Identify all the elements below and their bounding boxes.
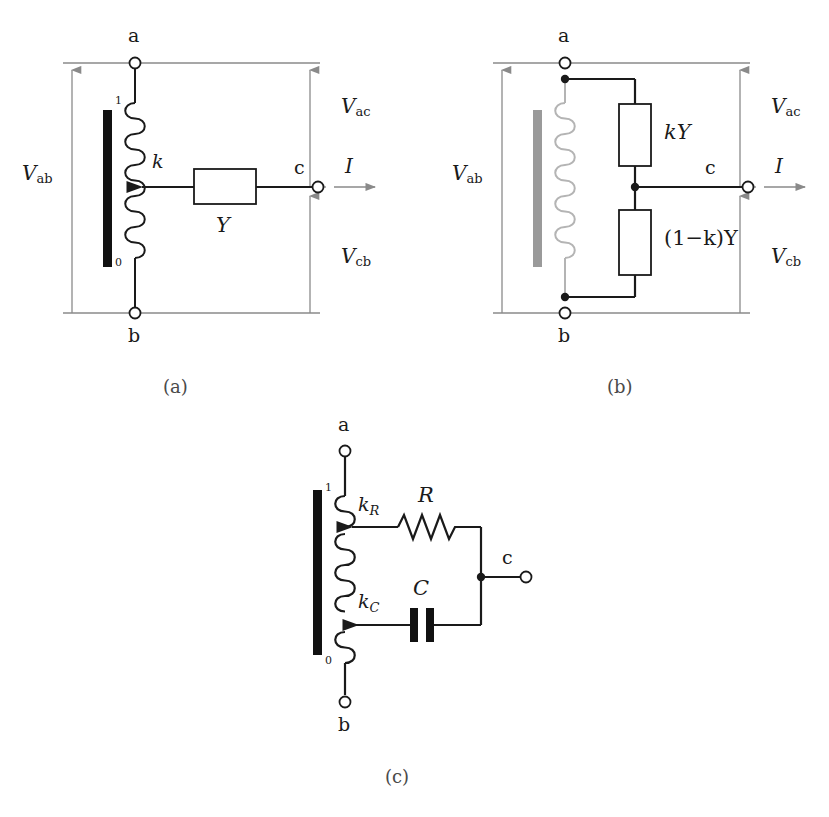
label-tap-kr-sub: R xyxy=(370,503,380,518)
label-v-cb-a: Vcb xyxy=(341,246,371,266)
admittance-box-1-k-y xyxy=(619,210,651,275)
core-bar-c xyxy=(313,490,322,655)
label-v-ab-a-main: V xyxy=(22,161,36,185)
caption-b: (b) xyxy=(607,378,633,396)
terminal-b-node xyxy=(130,308,141,319)
resistor-zigzag-c xyxy=(398,515,481,539)
label-v-ab-b-sub: ab xyxy=(466,171,482,186)
terminal-b-node-b xyxy=(560,308,571,319)
label-v-ac-a: Vac xyxy=(341,96,370,116)
caption-a: (a) xyxy=(163,378,188,396)
capacitor-plate-right xyxy=(426,608,434,642)
label-terminal-c-c: c xyxy=(502,548,513,567)
figure-root: a b c 1 0 k Y Vab Vac Vcb I a b c kY (1−… xyxy=(0,0,829,817)
label-tap-bottom-a: 0 xyxy=(115,257,122,268)
junction-dot-mid-b xyxy=(631,183,639,191)
label-v-ab-a-sub: ab xyxy=(36,171,52,186)
label-terminal-c-b: c xyxy=(705,158,716,177)
core-bar-a xyxy=(103,110,112,267)
label-tap-kc-sub: C xyxy=(370,600,380,615)
junction-dot-top-b xyxy=(561,75,569,83)
label-terminal-c: c xyxy=(294,158,305,177)
label-tap-bottom-c: 0 xyxy=(325,655,332,666)
label-v-ac-a-main: V xyxy=(341,94,355,118)
label-tap-ratio-k-a: k xyxy=(152,152,164,171)
label-v-cb-a-main: V xyxy=(341,244,355,268)
terminal-c-node-c xyxy=(521,572,532,583)
label-v-cb-b-main: V xyxy=(771,244,785,268)
label-v-ac-b: Vac xyxy=(771,96,800,116)
label-v-ab-b-main: V xyxy=(452,161,466,185)
capacitor-plate-left xyxy=(410,608,418,642)
panel-a-graphics xyxy=(63,58,375,319)
terminal-a-node-b xyxy=(560,58,571,69)
label-v-cb-b: Vcb xyxy=(771,246,801,266)
label-tap-kr: kR xyxy=(358,495,379,514)
terminal-c-node xyxy=(313,182,324,193)
label-tap-top-a: 1 xyxy=(115,95,122,106)
label-capacitor-c: C xyxy=(413,578,429,599)
junction-dot-bottom-b xyxy=(561,293,569,301)
label-v-ab-a: Vab xyxy=(22,163,53,183)
admittance-box-ky xyxy=(619,104,651,166)
terminal-c-node-b xyxy=(743,182,754,193)
caption-c: (c) xyxy=(385,768,409,786)
label-admittance-y: Y xyxy=(216,215,230,236)
label-v-cb-a-sub: cb xyxy=(355,254,371,269)
label-tap-top-c: 1 xyxy=(325,482,332,493)
label-v-ac-a-sub: ac xyxy=(355,104,370,119)
coil-b xyxy=(555,103,575,258)
admittance-box-a xyxy=(194,169,256,204)
circuit-schematic-svg xyxy=(0,0,829,817)
junction-dot-c xyxy=(477,573,485,581)
terminal-a-node xyxy=(130,58,141,69)
core-bar-b xyxy=(533,110,542,267)
label-v-ac-b-main: V xyxy=(771,94,785,118)
label-terminal-b-b: b xyxy=(558,326,570,345)
label-current-i-b: I xyxy=(775,156,783,176)
label-admittance-ky: kY xyxy=(664,122,691,143)
label-tap-kr-main: k xyxy=(358,493,370,515)
terminal-a-node-c xyxy=(340,446,351,457)
label-tap-kc: kC xyxy=(358,592,379,611)
label-current-i-a: I xyxy=(345,156,353,176)
label-admittance-1-k-y: (1−k)Y xyxy=(664,228,738,249)
label-terminal-a-b: a xyxy=(558,26,569,45)
panel-b-graphics xyxy=(493,58,805,319)
label-tap-kc-main: k xyxy=(358,590,370,612)
label-v-cb-b-sub: cb xyxy=(785,254,801,269)
label-terminal-b-c: b xyxy=(338,715,350,734)
label-resistor-r: R xyxy=(418,485,434,506)
label-v-ab-b: Vab xyxy=(452,163,483,183)
label-terminal-b: b xyxy=(128,326,140,345)
terminal-b-node-c xyxy=(340,697,351,708)
label-terminal-a: a xyxy=(128,26,139,45)
label-terminal-a-c: a xyxy=(338,415,349,434)
label-v-ac-b-sub: ac xyxy=(785,104,800,119)
